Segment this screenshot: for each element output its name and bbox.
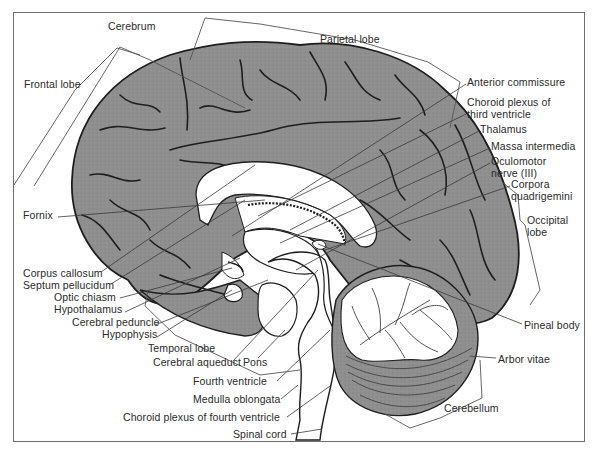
label-massa-intermedia: Massa intermedia (491, 140, 575, 152)
label-hypophysis: Hypophysis (102, 328, 157, 340)
brain-illustration (0, 0, 601, 457)
label-occipital-lobe: Occipitallobe (527, 214, 568, 238)
label-choroid-plexus-third-ventricle: Choroid plexus ofthird ventricle (467, 96, 550, 120)
label-thalamus: Thalamus (480, 123, 527, 135)
label-optic-chiasm: Optic chiasm (54, 291, 116, 303)
label-frontal-lobe: Frontal lobe (24, 78, 81, 90)
label-hypothalamus: Hypothalamus (54, 303, 122, 315)
label-cerebral-peduncle: Cerebral peduncle (72, 316, 160, 328)
label-anterior-commissure: Anterior commissure (467, 76, 565, 88)
label-cerebrum: Cerebrum (108, 20, 155, 32)
label-cerebral-aqueduct: Cerebral aqueduct (153, 356, 241, 368)
leader-medulla-oblongata (281, 385, 298, 399)
label-corpora-quadrigemini: Corporaquadrigemini (511, 178, 572, 202)
label-temporal-lobe: Temporal lobe (148, 342, 215, 354)
label-oculomotor-nerve: Oculomotornerve (III) (491, 155, 546, 179)
label-parietal-lobe: Parietal lobe (320, 33, 380, 45)
brain-diagram: Cerebrum Parietal lobe Frontal lobe Ante… (0, 0, 601, 457)
label-septum-pellucidum: Septum pellucidum (23, 279, 114, 291)
label-pons: Pons (243, 356, 267, 368)
label-fourth-ventricle: Fourth ventricle (193, 375, 267, 387)
label-choroid-plexus-fourth-ventricle: Choroid plexus of fourth ventricle (123, 411, 280, 423)
label-corpus-callosum: Corpus callosum (23, 267, 103, 279)
label-cerebellum: Cerebellum (444, 402, 499, 414)
label-arbor-vitae: Arbor vitae (498, 353, 550, 365)
label-pineal-body: Pineal body (524, 319, 580, 331)
label-medulla-oblongata: Medulla oblongata (193, 393, 281, 405)
label-spinal-cord: Spinal cord (233, 428, 287, 440)
label-fornix: Fornix (23, 209, 53, 221)
